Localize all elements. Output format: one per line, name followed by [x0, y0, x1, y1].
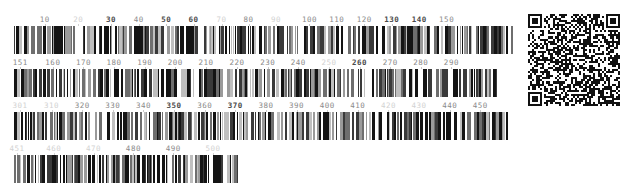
barcode-row-1-bars — [14, 26, 513, 54]
barcode-row-4: 451460470480490500 — [14, 143, 238, 183]
barcode-row-1-ruler: 102030405060708090100110120130140150 — [14, 14, 513, 26]
barcode-row-3: 3013103203303403503603703803904004104204… — [14, 100, 508, 140]
barcode-row-3-bars — [14, 112, 508, 140]
barcode-row-2-bars — [14, 69, 500, 97]
barcode-bars-canvas — [14, 69, 500, 97]
barcode-bars-canvas — [14, 112, 508, 140]
barcode-bars-canvas — [14, 26, 513, 54]
barcode-row-3-ruler: 3013103203303403503603703803904004104204… — [14, 100, 508, 112]
qr-code — [528, 14, 620, 106]
barcode-row-2-ruler: 1511601701801902002102202302402502602702… — [14, 57, 500, 69]
qr-code-canvas — [528, 14, 620, 106]
barcode-bars-canvas — [14, 155, 238, 183]
barcode-row-1: 102030405060708090100110120130140150 — [14, 14, 513, 54]
barcode-row-4-ruler: 451460470480490500 — [14, 143, 238, 155]
barcode-row-4-bars — [14, 155, 238, 183]
barcode-row-2: 1511601701801902002102202302402502602702… — [14, 57, 500, 97]
